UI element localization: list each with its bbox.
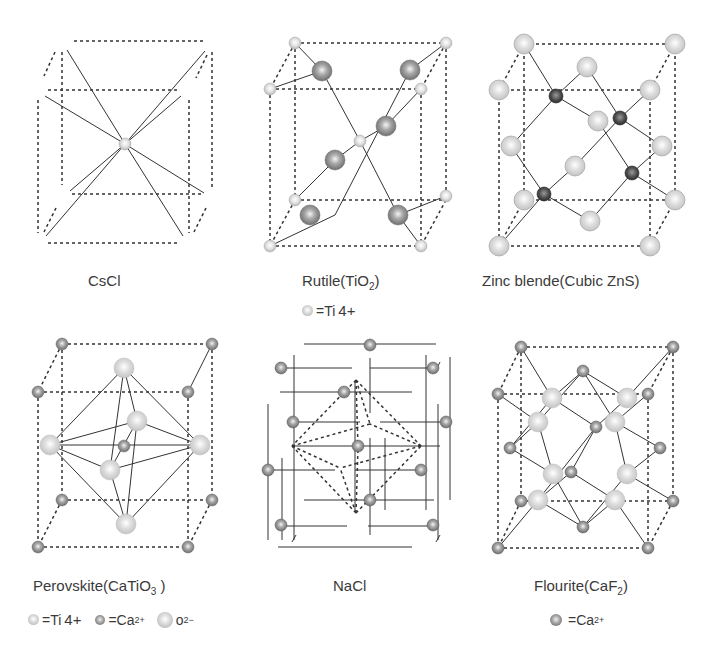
ti-atom [415,83,427,95]
ca-atom-icon [95,615,105,625]
ti-atom [354,135,366,147]
s-atom [514,34,534,54]
s-atom [665,190,685,210]
s-atom [577,57,597,77]
ca-atom [492,542,504,554]
ca-atom [504,442,516,454]
ti-atom [264,83,276,95]
na-atom [262,464,274,476]
rutile-structure [264,37,452,252]
ca-atom [206,494,218,506]
ca-atom [32,386,44,398]
legend-ca-charge: 2+ [594,615,604,625]
rutile-label-suffix: ) [375,272,380,289]
ti-atom-icon [302,305,313,316]
ca-atom [32,541,44,553]
ti-atom [264,240,276,252]
perovskite-label: Perovskite(CaTiO3 ) [33,577,166,597]
legend-ti-symbol: =Ti [316,303,335,319]
na-atom [287,416,299,428]
ti-atom [415,240,427,252]
ca-atom [206,338,218,350]
zincblende-label: Zinc blende(Cubic ZnS) [482,272,640,289]
na-atom [275,519,287,531]
na-atom [440,416,452,428]
rutile-label-text: Rutile(TiO [302,272,369,289]
o-atom [312,61,332,81]
legend-ca-charge: 2+ [135,615,145,625]
na-atom [415,464,427,476]
ca-atom [642,542,654,554]
ca-atom [182,386,194,398]
zn-atom [549,89,563,103]
zn-atom [613,111,627,125]
s-atom [565,156,585,176]
s-atom [665,34,685,54]
ca-atom [642,388,654,400]
fluorite-legend: =Ca 2+ [550,612,604,628]
o-atom [300,205,320,225]
f-atom [528,412,548,432]
ti-atom [289,37,301,49]
s-atom [580,211,600,231]
legend-o-symbol: o [176,612,184,628]
perovskite-label-text: Perovskite(CaTiO [33,577,151,594]
ca-atom [182,541,194,553]
f-atom [617,464,637,484]
ca-atom [56,494,68,506]
na-atom [338,386,350,398]
o-atom [376,116,396,136]
zincblende-label-text: Zinc blende(Cubic ZnS) [482,272,640,289]
s-atom [489,236,509,256]
o-atom [127,411,147,431]
cs-atom [119,138,131,150]
ca-atom [667,495,679,507]
legend-ca-symbol: =Ca [568,612,594,628]
f-atom [605,412,625,432]
cscl-label: CsCl [88,272,121,289]
f-atom [605,490,625,510]
cscl-structure [38,41,212,243]
ca-atom [56,338,68,350]
perovskite-label-suffix: ) [156,577,165,594]
s-atom [640,80,660,100]
fluorite-label-suffix: ) [623,577,628,594]
f-atom [542,388,562,408]
o-atom [325,150,345,170]
rutile-label: Rutile(TiO2) [302,272,380,292]
nacl-label: NaCl [333,577,366,594]
o-atom-icon [157,612,173,628]
s-atom [652,136,672,156]
ca-atom [565,466,577,478]
ca-atom [577,521,589,533]
f-atom [528,490,548,510]
perovskite-structure [32,338,218,553]
s-atom [501,136,521,156]
o-atom [114,358,134,378]
o-atom [190,435,210,455]
ti-atom [440,37,452,49]
na-atom [364,339,376,351]
s-atom [514,190,534,210]
o-atom [388,205,408,225]
ca-atom [577,365,589,377]
o-atom [400,60,420,80]
ca-atom [515,495,527,507]
fluorite-structure [492,341,679,554]
ca-atom [515,341,527,353]
ti-atom [118,440,130,452]
o-atom [40,435,60,455]
ca-atom [492,388,504,400]
o-atom [116,514,136,534]
f-atom [617,388,637,408]
legend-ca-symbol: =Ca [108,612,134,628]
na-atom [352,440,364,452]
o-atom [100,460,120,480]
fluorite-label-text: Flourite(CaF [534,577,617,594]
zincblende-structure [489,34,685,256]
nacl-label-text: NaCl [333,577,366,594]
na-atom [275,362,287,374]
cscl-label-text: CsCl [88,272,121,289]
legend-ti-symbol: =Ti [42,612,61,628]
ca-atom-icon [550,614,562,626]
